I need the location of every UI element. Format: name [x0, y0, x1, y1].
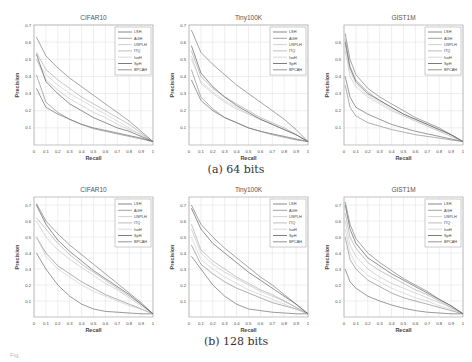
y-tick-label: 0.1	[335, 125, 341, 130]
x-tick-label: 0.2	[55, 149, 61, 154]
x-tick-label: 0.2	[210, 149, 216, 154]
x-tick-label: 0.9	[448, 149, 454, 154]
legend-item: IsoH	[289, 228, 297, 232]
y-tick-label: 0.5	[180, 57, 186, 62]
legend-item: SpH	[134, 234, 142, 238]
x-tick-label: 0.8	[436, 321, 442, 326]
x-tick-label: 0.6	[102, 149, 108, 154]
y-tick-label: 0.6	[180, 40, 186, 45]
x-tick-label: 0.8	[126, 321, 132, 326]
y-axis-label: Precision	[169, 244, 175, 269]
y-tick-label: 0.6	[335, 219, 341, 224]
y-tick-label: 0.1	[335, 299, 341, 304]
legend-item: LSH	[444, 202, 452, 206]
x-tick-label: 0	[343, 321, 346, 326]
x-tick-label: 0.4	[234, 149, 240, 154]
x-tick-label: 0	[33, 149, 36, 154]
legend-item: AGH	[134, 209, 142, 213]
y-tick-label: 0.2	[335, 283, 341, 288]
x-tick-label: 0	[188, 321, 191, 326]
x-tick-label: 0.5	[401, 149, 407, 154]
x-tick-label: 1	[462, 321, 465, 326]
series-line-lsh	[345, 76, 463, 141]
x-tick-label: 0.8	[281, 321, 287, 326]
series-line-isoh	[191, 237, 308, 314]
y-tick-label: 0.2	[180, 283, 186, 288]
x-axis-label: Recall	[85, 327, 102, 332]
y-tick-label: 0.4	[335, 251, 341, 256]
legend-item: USPLH	[289, 215, 302, 219]
legend-item: AGH	[444, 37, 452, 41]
y-tick-label: 0.7	[335, 203, 341, 208]
x-tick-label: 0.9	[138, 149, 144, 154]
chart-gist1m-64: GIST1M00.10.20.30.40.50.60.70.80.910.10.…	[310, 0, 467, 160]
y-tick-label: 0.6	[25, 219, 31, 224]
x-tick-label: 0.1	[43, 321, 49, 326]
y-tick-label: 0.6	[335, 40, 341, 45]
legend-item: SpH	[444, 234, 452, 238]
x-tick-label: 0.9	[293, 149, 299, 154]
legend-item: BPCAH	[289, 68, 302, 72]
series-line-lsh	[36, 253, 153, 314]
legend-item: BPCAH	[444, 240, 457, 244]
x-tick-label: 0.9	[293, 321, 299, 326]
y-tick-label: 0.4	[25, 74, 31, 79]
x-tick-label: 0.1	[198, 149, 204, 154]
y-tick-label: 0.5	[335, 57, 341, 62]
y-axis-label: Precision	[169, 72, 175, 97]
legend-item: SpH	[134, 62, 142, 66]
legend-item: AGH	[289, 37, 297, 41]
legend-item: LSH	[289, 30, 297, 34]
y-axis-label: Precision	[324, 72, 330, 97]
chart-title: Tiny100K	[235, 186, 263, 194]
legend-item: LSH	[134, 30, 142, 34]
legend-item: LSH	[444, 30, 452, 34]
legend-item: ITQ	[134, 221, 140, 225]
x-tick-label: 0.2	[55, 321, 61, 326]
x-axis-label: Recall	[395, 155, 412, 160]
x-tick-label: 0.6	[257, 321, 263, 326]
legend-item: IsoH	[444, 56, 452, 60]
x-tick-label: 0.6	[412, 149, 418, 154]
y-tick-label: 0.7	[180, 23, 186, 28]
x-tick-label: 0.5	[401, 321, 407, 326]
x-tick-label: 0.4	[234, 321, 240, 326]
y-tick-label: 0.1	[25, 299, 31, 304]
x-tick-label: 0.9	[138, 321, 144, 326]
x-tick-label: 0.3	[377, 321, 383, 326]
x-tick-label: 0	[33, 321, 36, 326]
y-tick-label: 0.3	[335, 267, 341, 272]
legend-item: SpH	[289, 234, 297, 238]
x-tick-label: 0.3	[377, 149, 383, 154]
legend-item: USPLH	[444, 215, 457, 219]
x-tick-label: 0.7	[114, 321, 120, 326]
y-tick-label: 0.4	[25, 251, 31, 256]
x-tick-label: 0.4	[389, 321, 395, 326]
y-tick-label: 0.1	[180, 299, 186, 304]
legend-item: AGH	[289, 209, 297, 213]
legend-item: AGH	[444, 209, 452, 213]
x-tick-label: 0.1	[353, 149, 359, 154]
x-axis-label: Recall	[240, 327, 257, 332]
x-tick-label: 0.7	[424, 149, 430, 154]
caption-128-bits: (b) 128 bits	[0, 335, 472, 348]
x-tick-label: 0.7	[269, 149, 275, 154]
y-tick-label: 0.3	[180, 267, 186, 272]
legend-item: USPLH	[289, 43, 302, 47]
legend-item: ITQ	[444, 49, 450, 53]
y-axis-label: Precision	[14, 72, 20, 97]
chart-tiny100k-64: Tiny100K00.10.20.30.40.50.60.70.80.910.1…	[155, 0, 312, 160]
chart-title: Tiny100K	[235, 14, 263, 22]
y-tick-label: 0.2	[180, 108, 186, 113]
x-tick-label: 0.5	[91, 321, 97, 326]
y-tick-label: 0.5	[335, 235, 341, 240]
y-tick-label: 0.5	[25, 57, 31, 62]
x-tick-label: 0.7	[424, 321, 430, 326]
x-tick-label: 0.8	[436, 149, 442, 154]
chart-title: GIST1M	[391, 14, 415, 21]
x-axis-label: Recall	[85, 155, 102, 160]
x-tick-label: 0.6	[257, 149, 263, 154]
y-tick-label: 0.7	[180, 203, 186, 208]
x-tick-label: 0.8	[126, 149, 132, 154]
y-tick-label: 0.5	[180, 235, 186, 240]
